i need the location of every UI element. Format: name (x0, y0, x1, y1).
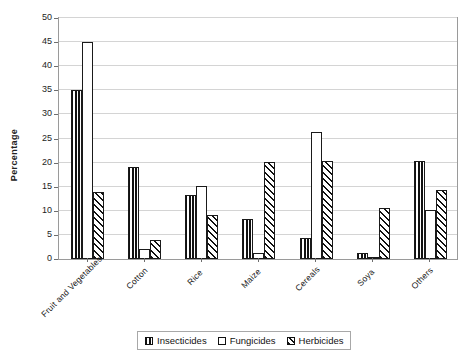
y-tick-label: 35 (24, 84, 52, 94)
bar-fungicides-cotton (139, 249, 150, 259)
bar-fungicides-cereals (311, 132, 322, 259)
bar-insecticides-rice (185, 195, 196, 259)
legend-swatch-insecticides (145, 337, 153, 345)
x-axis-label-fruit-and-vegetables: Fruit and Vegetables (39, 254, 104, 319)
bar-insecticides-soya (357, 253, 368, 259)
y-tick-label: 0 (24, 253, 52, 263)
y-tick-mark (54, 66, 58, 67)
bar-herbicides-cotton (150, 240, 161, 259)
plot-area (58, 17, 458, 260)
bar-group (173, 18, 230, 259)
y-tick-mark (54, 114, 58, 115)
y-tick-mark (54, 259, 58, 260)
x-axis-label-maize: Maize (239, 266, 263, 290)
bar-herbicides-maize (264, 162, 275, 259)
bar-insecticides-others (414, 161, 425, 259)
y-tick-mark (54, 187, 58, 188)
bar-group (345, 18, 402, 259)
x-tick-mark (87, 258, 88, 262)
bar-group (59, 18, 116, 259)
bar-herbicides-rice (207, 215, 218, 259)
y-tick-label: 25 (24, 133, 52, 143)
y-tick-mark (54, 18, 58, 19)
y-tick-label: 30 (24, 108, 52, 118)
y-tick-label: 15 (24, 181, 52, 191)
bar-group (402, 18, 459, 259)
bar-insecticides-fruit-and-vegetables (71, 90, 82, 259)
x-tick-mark (372, 258, 373, 262)
bar-fungicides-others (425, 210, 436, 259)
chart-legend: InsecticidesFungicidesHerbicides (137, 331, 351, 350)
bar-herbicides-cereals (322, 161, 333, 259)
bar-herbicides-fruit-and-vegetables (93, 192, 104, 259)
legend-item-insecticides[interactable]: Insecticides (145, 335, 207, 346)
x-tick-mark (315, 258, 316, 262)
legend-item-herbicides[interactable]: Herbicides (287, 335, 344, 346)
y-tick-label: 45 (24, 36, 52, 46)
y-tick-mark (54, 163, 58, 164)
bar-group (116, 18, 173, 259)
legend-label: Herbicides (299, 335, 344, 346)
bar-group (230, 18, 287, 259)
x-axis-label-cereals: Cereals (293, 265, 322, 294)
y-axis-title-text: Percentage (9, 129, 19, 182)
x-tick-mark (201, 258, 202, 262)
y-tick-mark (54, 235, 58, 236)
legend-label: Fungicides (230, 335, 276, 346)
y-tick-label: 10 (24, 205, 52, 215)
bar-herbicides-soya (379, 208, 390, 259)
bar-fungicides-rice (196, 186, 207, 259)
bar-chart: Percentage 05101520253035404550 Fruit an… (0, 0, 469, 358)
x-axis-label-cotton: Cotton (124, 266, 150, 292)
y-tick-mark (54, 42, 58, 43)
bar-group (288, 18, 345, 259)
bar-insecticides-maize (242, 219, 253, 259)
legend-label: Insecticides (157, 335, 207, 346)
y-tick-label: 5 (24, 229, 52, 239)
bar-insecticides-cotton (128, 167, 139, 259)
x-axis-labels: Fruit and VegetablesCottonRiceMaizeCerea… (58, 262, 458, 322)
x-axis-label-rice: Rice (185, 267, 205, 287)
legend-item-fungicides[interactable]: Fungicides (218, 335, 276, 346)
legend-swatch-herbicides (287, 337, 295, 345)
bar-fungicides-fruit-and-vegetables (82, 42, 93, 259)
bar-herbicides-others (436, 190, 447, 259)
y-tick-mark (54, 90, 58, 91)
y-tick-mark (54, 211, 58, 212)
bar-series-container (59, 18, 457, 259)
x-tick-mark (144, 258, 145, 262)
y-tick-label: 50 (24, 12, 52, 22)
y-tick-mark (54, 139, 58, 140)
bar-insecticides-cereals (300, 238, 311, 259)
y-tick-label: 40 (24, 60, 52, 70)
x-axis-label-soya: Soya (355, 267, 376, 288)
legend-swatch-fungicides (218, 337, 226, 345)
y-tick-label: 20 (24, 157, 52, 167)
x-axis-label-others: Others (409, 265, 435, 291)
x-tick-mark (258, 258, 259, 262)
x-tick-mark (429, 258, 430, 262)
y-axis-title: Percentage (6, 70, 22, 240)
